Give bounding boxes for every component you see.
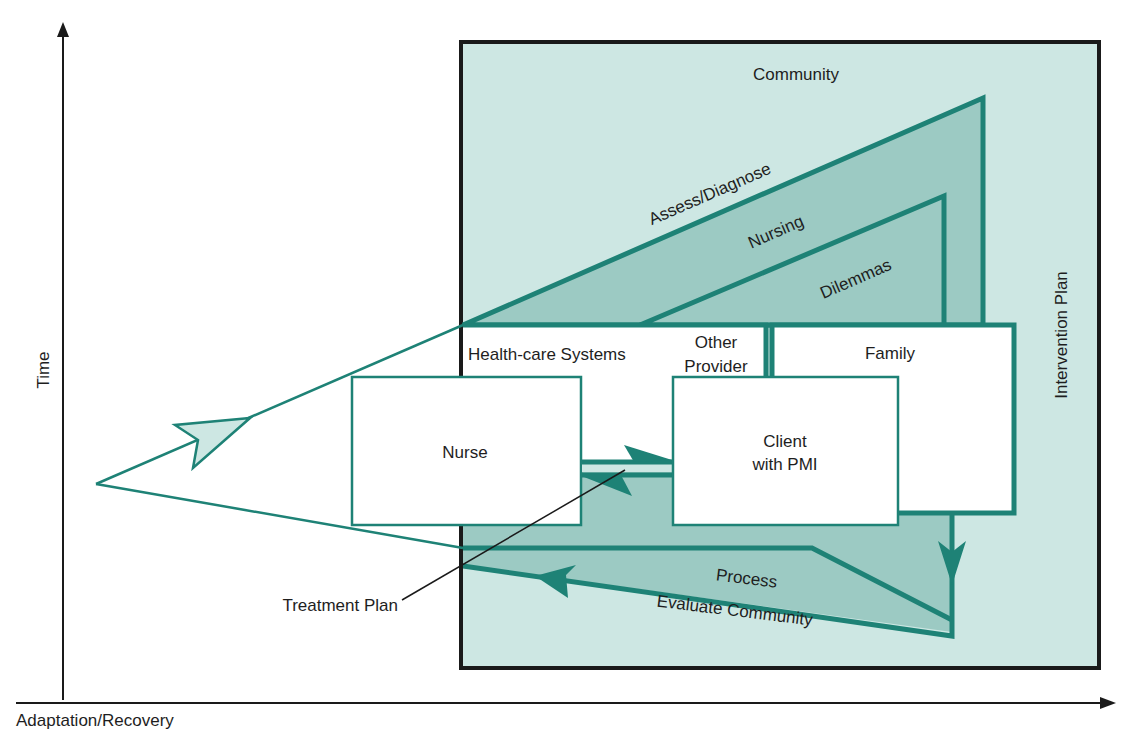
client-with-pmi-box [673,377,898,525]
cone-arrowhead-icon [175,418,250,468]
y-axis-arrowhead-icon [57,22,69,37]
family-label: Family [865,344,916,363]
nursing-process-diagram: Time Adaptation/Recovery Community Inter… [0,0,1124,744]
other-provider-label-line1: Other [695,333,738,352]
nurse-label: Nurse [442,443,487,462]
x-axis-label: Adaptation/Recovery [16,711,174,730]
client-label-line2: with PMI [751,455,817,474]
treatment-plan-label: Treatment Plan [282,596,398,615]
client-label-line1: Client [763,432,807,451]
other-provider-label-line2: Provider [684,357,748,376]
y-axis-label: Time [34,351,53,388]
health-care-systems-label: Health-care Systems [468,345,626,364]
community-label: Community [753,65,839,84]
x-axis-arrowhead-icon [1100,697,1116,709]
intervention-plan-label: Intervention Plan [1052,271,1071,399]
